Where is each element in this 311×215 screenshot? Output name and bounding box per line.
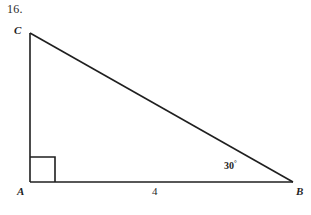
right-angle-marker-icon (30, 157, 55, 182)
angle-value: 30 (224, 160, 234, 171)
vertex-label-c: C (14, 24, 21, 36)
degree-symbol-icon: ° (234, 159, 237, 167)
vertex-label-b: B (296, 185, 303, 197)
right-triangle-drawing (0, 0, 311, 215)
triangle-side-cb-hypotenuse (30, 33, 293, 182)
geometry-figure: 16. C A B 4 30° (0, 0, 311, 215)
vertex-label-a: A (17, 185, 24, 197)
side-length-label-ab: 4 (152, 186, 158, 197)
angle-measure-label-b: 30° (224, 160, 237, 171)
